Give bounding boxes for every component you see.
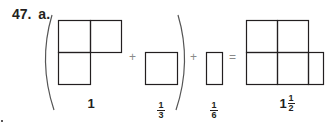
label-one-sixth: 1 6 — [208, 94, 220, 120]
fraction-one-half: 1 2 — [288, 94, 295, 113]
shape-one-third — [146, 53, 178, 85]
equals-operator: = — [229, 51, 236, 63]
mixed-number-one-and-half: 1 1 2 — [279, 94, 294, 113]
stray-dot — [1, 120, 3, 122]
shape-one-sixth — [207, 53, 223, 85]
shape-result — [247, 21, 324, 85]
fraction-one-sixth: 1 6 — [210, 101, 217, 120]
plus-operator-2: + — [190, 51, 197, 63]
left-parenthesis — [45, 15, 54, 110]
label-one-third: 1 3 — [155, 94, 167, 120]
label-one: 1 — [85, 96, 97, 111]
label-result: 1 1 2 — [276, 94, 298, 113]
shape-one-whole — [59, 21, 122, 85]
plus-operator-1: + — [129, 51, 136, 63]
fraction-one-third: 1 3 — [157, 101, 164, 120]
